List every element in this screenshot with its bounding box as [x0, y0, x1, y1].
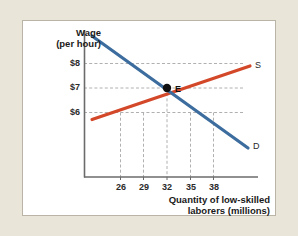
- equilibrium-point-marker: [163, 84, 171, 92]
- x-axis-title-line2: laborers (millions): [140, 205, 270, 216]
- demand-curve-label: D: [253, 141, 260, 151]
- figure-root: Wage (per hour) Quantity of low-skilled …: [0, 0, 298, 236]
- demand-curve: [92, 36, 248, 148]
- y-axis-title: Wage (per hour): [33, 27, 101, 49]
- vertical-gridlines: [121, 88, 214, 177]
- plot-area: Wage (per hour) Quantity of low-skilled …: [0, 0, 298, 236]
- x-axis-title: Quantity of low-skilled laborers (millio…: [140, 194, 270, 216]
- equilibrium-point-label: E: [175, 84, 181, 94]
- y-tick-label-8: $8: [54, 58, 80, 68]
- y-axis-title-line1: Wage: [33, 27, 101, 38]
- supply-curve-label: S: [255, 60, 261, 70]
- x-tick-label-26: 26: [110, 182, 132, 192]
- x-tick-label-35: 35: [180, 182, 202, 192]
- y-tick-label-7: $7: [54, 82, 80, 92]
- y-tick-label-6: $6: [54, 107, 80, 117]
- y-axis-title-line2: (per hour): [33, 38, 101, 49]
- x-tick-label-38: 38: [203, 182, 225, 192]
- x-tick-label-32: 32: [156, 182, 178, 192]
- x-axis-title-line1: Quantity of low-skilled: [140, 194, 270, 205]
- x-tick-label-29: 29: [133, 182, 155, 192]
- axis-spines: [84, 30, 258, 178]
